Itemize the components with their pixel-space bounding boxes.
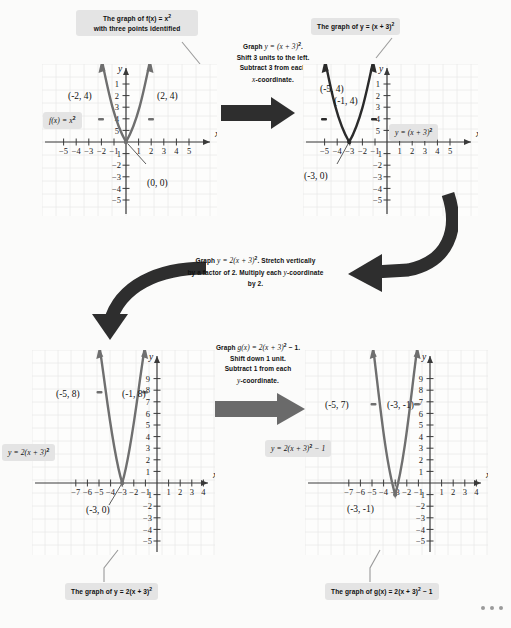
graph-4-xaxis-label: x: [485, 470, 488, 480]
graph-3-panel: −7−6−5 −4−3−2 −1 123 4 12 34 56 78 9 1−2…: [32, 350, 215, 555]
graph-4-yaxis-label: y: [421, 352, 427, 362]
svg-text:−3: −3: [84, 146, 93, 156]
svg-text:−4: −4: [379, 487, 389, 497]
svg-text:−2: −2: [402, 487, 411, 497]
graph-3-svg: −7−6−5 −4−3−2 −1 123 4 12 34 56 78 9 1−2…: [32, 350, 215, 555]
svg-text:1: 1: [117, 149, 121, 159]
instruction-step-3-line2: Shift down 1 unit.: [230, 355, 286, 362]
graph-3-curve: [99, 350, 145, 483]
svg-text:2: 2: [146, 455, 150, 465]
svg-text:−4: −4: [143, 525, 153, 535]
instruction-step-2-line2: by a factor of 2. Multiply each y-coordi…: [188, 269, 324, 276]
callout-bottom-left: The graph of y = 2(x + 3)2: [65, 583, 158, 600]
graph-4-grid: [305, 350, 488, 555]
graph-2-point-label-1: (-5, 4): [320, 84, 344, 94]
svg-text:2: 2: [451, 487, 455, 497]
svg-text:−2: −2: [112, 160, 121, 170]
graph-2-point-label-2: (-1, 4): [334, 96, 358, 106]
callout-bottom-right: The graph of g(x) = 2(x + 3)2 − 1: [325, 583, 439, 600]
callout-final-label: y = 2(x + 3)2 − 1: [265, 440, 331, 457]
svg-text:1: 1: [376, 79, 380, 89]
svg-text:2: 2: [410, 146, 414, 156]
svg-text:3: 3: [419, 443, 423, 453]
svg-text:4: 4: [146, 432, 151, 442]
page-dot-3: [499, 606, 503, 610]
svg-text:3: 3: [376, 102, 380, 112]
svg-text:2: 2: [149, 146, 153, 156]
svg-text:2: 2: [178, 487, 182, 497]
svg-text:−4: −4: [333, 146, 343, 156]
svg-text:−4: −4: [72, 146, 82, 156]
callout-fx-label: f(x) = x2: [43, 112, 82, 129]
callout-top-left-line2: with three points identified: [94, 25, 181, 32]
svg-text:−5: −5: [59, 146, 68, 156]
svg-text:3: 3: [423, 146, 427, 156]
callout-top-right: The graph of y = (x + 3)2: [311, 18, 400, 35]
graph-4-point-label-1: (-5, 7): [325, 400, 349, 410]
instruction-step-3: Graph g(x) = 2(x + 3)2 − 1. Shift down 1…: [198, 341, 318, 387]
graph-4-curve-arrow-right: [414, 350, 421, 359]
svg-text:5: 5: [146, 420, 150, 430]
graph-3-ticks: [76, 379, 204, 541]
instruction-step-3-line1: Graph g(x) = 2(x + 3)2 − 1.: [216, 344, 300, 351]
page-dot-2: [490, 606, 494, 610]
svg-text:3: 3: [115, 102, 119, 112]
svg-text:5: 5: [448, 146, 452, 156]
svg-text:−3: −3: [416, 513, 425, 523]
instruction-step-2-line1: Graph y = 2(x + 3)2. Stretch vertically: [196, 257, 316, 264]
graph-3-point-label-1: (-5, 8): [56, 389, 80, 399]
svg-text:−2: −2: [129, 487, 138, 497]
graph-2-points: [321, 118, 377, 144]
svg-text:1: 1: [421, 490, 425, 500]
graph-1-xaxis-label: x: [214, 129, 217, 139]
callout-top-left: The graph of f(x) = x2 with three points…: [76, 10, 198, 36]
svg-text:−2: −2: [97, 146, 106, 156]
svg-text:−5: −5: [320, 146, 329, 156]
graph-4-curve: [373, 350, 418, 495]
svg-text:2: 2: [419, 455, 423, 465]
svg-text:1: 1: [419, 467, 423, 477]
svg-text:−5: −5: [94, 487, 103, 497]
svg-text:1: 1: [439, 487, 443, 497]
svg-text:−2: −2: [358, 146, 367, 156]
svg-text:1: 1: [115, 79, 119, 89]
instruction-step-3-line4: y-coordinate.: [237, 377, 279, 384]
svg-text:9: 9: [146, 374, 150, 384]
graph-3-tick-labels: −7−6−5 −4−3−2 −1 123 4 12 34 56 78 9 1−2…: [71, 374, 206, 546]
callout-stretch-label: y = 2(x + 3)2: [2, 444, 55, 461]
svg-text:−3: −3: [143, 513, 152, 523]
svg-text:6: 6: [419, 409, 423, 419]
svg-text:1: 1: [146, 467, 150, 477]
page-dots: [481, 606, 503, 610]
svg-text:2: 2: [376, 91, 380, 101]
svg-text:3: 3: [463, 487, 467, 497]
svg-text:4: 4: [435, 146, 440, 156]
svg-text:−6: −6: [83, 487, 92, 497]
svg-text:8: 8: [419, 385, 423, 395]
instruction-step-1-line4: x-coordinate.: [252, 76, 294, 83]
graph-4-curve-arrow-left: [370, 350, 377, 359]
callout-shift-label: y = (x + 3)2: [389, 124, 438, 141]
graph-3-xaxis-label: x: [212, 470, 215, 480]
svg-text:−2: −2: [373, 160, 382, 170]
graph-4-svg: −7−6−5 −4−3−2 −1 123 4 12 34 56 78 9 1−2…: [305, 350, 488, 555]
page-dot-1: [481, 606, 485, 610]
svg-text:7: 7: [146, 397, 150, 407]
svg-text:5: 5: [187, 146, 191, 156]
svg-text:−2: −2: [416, 501, 425, 511]
svg-text:−7: −7: [344, 487, 353, 497]
svg-text:4: 4: [174, 146, 179, 156]
instruction-step-3-line3: Subtract 1 from each: [225, 365, 292, 372]
instruction-step-1-line1: Graph y = (x + 3)2.: [243, 43, 303, 50]
graph-3-yaxis-label: y: [148, 352, 154, 362]
arrow-step-1: [221, 96, 297, 130]
graph-3-point-label-2: (-1, 8): [122, 389, 146, 399]
graph-4-point-label-3: (-3, -1): [347, 504, 374, 514]
graph-2-yaxis-label: y: [378, 64, 384, 74]
svg-text:6: 6: [146, 409, 150, 419]
arrow-step-3: [215, 392, 307, 426]
svg-text:−3: −3: [112, 172, 121, 182]
instruction-step-2: Graph y = 2(x + 3)2. Stretch vertically …: [163, 254, 348, 289]
graph-1-yaxis-label: y: [117, 64, 123, 74]
graph-1-point-label-1: (-2, 4): [68, 91, 92, 101]
